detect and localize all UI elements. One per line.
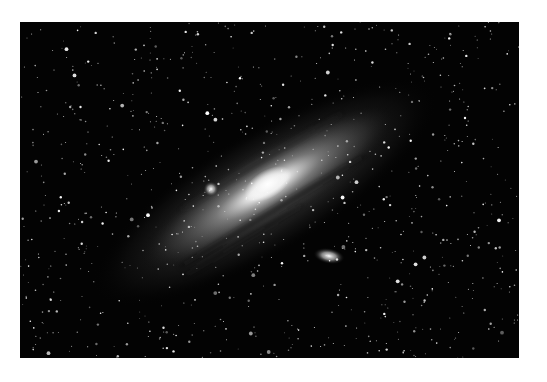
galaxy-image bbox=[20, 22, 519, 358]
galaxy-photo bbox=[20, 22, 519, 358]
